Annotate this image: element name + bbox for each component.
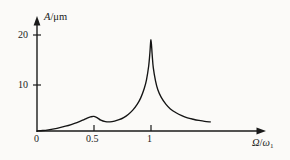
x-axis-denominator-subscript: 1 xyxy=(270,142,274,150)
x-axis-numerator-symbol: Ω xyxy=(252,137,260,148)
y-axis-tick-label-20: 20 xyxy=(18,30,28,40)
x-axis-tick-label-0: 0 xyxy=(34,134,39,144)
x-axis-tick-label-0-5: 0.5 xyxy=(86,134,99,144)
y-axis-tick-label-10: 10 xyxy=(18,80,28,90)
x-axis-title: Ω/ω1 xyxy=(252,138,273,150)
x-axis-arrow-icon xyxy=(257,128,267,135)
x-axis-denominator-symbol: ω xyxy=(263,137,270,148)
y-axis-unit: μm xyxy=(53,11,67,22)
resonance-curve-figure: 20 10 0 0.5 1 A/μm Ω/ω1 xyxy=(0,0,290,160)
y-axis-arrow-icon xyxy=(34,16,41,26)
x-axis-tick-label-1: 1 xyxy=(147,134,152,144)
chart-plot-area xyxy=(0,0,290,160)
amplitude-response-curve xyxy=(37,40,210,131)
y-axis-title: A/μm xyxy=(44,12,67,23)
